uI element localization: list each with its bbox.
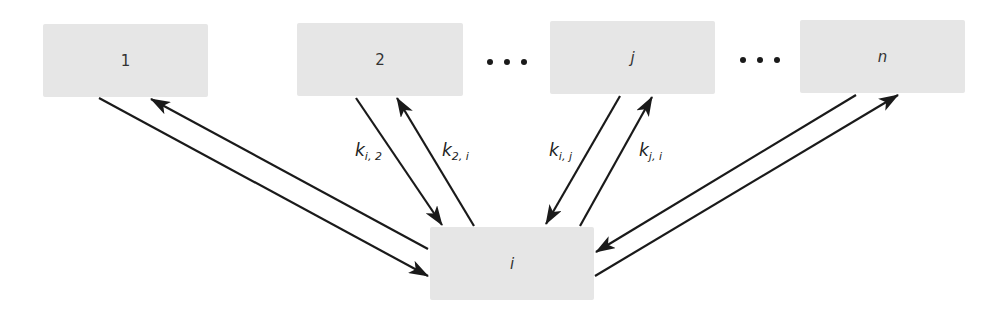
label-subscript: j, i (649, 150, 662, 163)
label-subscript: i, j (559, 150, 572, 163)
ellipsis-dot (504, 59, 510, 65)
ellipsis-j-to-n (740, 57, 780, 63)
node-n-label: n (878, 48, 888, 66)
node-i: i (430, 227, 594, 300)
label-base: k (355, 140, 365, 160)
edge-label-k-2-i: k2, i (442, 140, 469, 163)
label-subscript: 2, i (452, 150, 469, 163)
edge-n-to-i (596, 95, 856, 252)
edge-label-k-i-2: ki, 2 (355, 140, 382, 163)
label-base: k (639, 140, 649, 160)
label-subscript: i, 2 (365, 150, 382, 163)
node-1-label: 1 (121, 52, 131, 70)
ellipsis-2-to-j (487, 59, 527, 65)
node-i-label: i (510, 255, 514, 273)
ellipsis-dot (521, 59, 527, 65)
node-1: 1 (43, 24, 208, 97)
edge-1-to-i (99, 98, 428, 276)
edge-i-to-1 (151, 99, 428, 249)
ellipsis-dot (740, 57, 746, 63)
node-j-label: j (630, 49, 634, 67)
edge-label-k-j-i: kj, i (639, 140, 662, 163)
node-n: n (800, 20, 965, 93)
edge-label-k-i-j: ki, j (549, 140, 572, 163)
node-2: 2 (297, 23, 463, 96)
node-j: j (550, 21, 715, 94)
ellipsis-dot (487, 59, 493, 65)
ellipsis-dot (757, 57, 763, 63)
label-base: k (442, 140, 452, 160)
ellipsis-dot (774, 57, 780, 63)
edge-i-to-n (595, 95, 898, 276)
node-2-label: 2 (375, 51, 385, 69)
label-base: k (549, 140, 559, 160)
